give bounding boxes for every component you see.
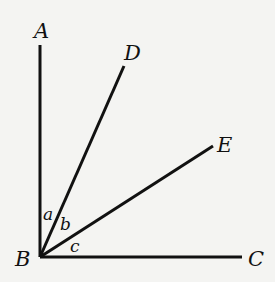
point-label-c: C <box>248 247 264 271</box>
point-label-d: D <box>123 41 141 65</box>
angle-label-a: a <box>43 204 53 224</box>
angle-diagram: A D E C B a b c <box>0 0 275 282</box>
point-label-b: B <box>14 247 30 271</box>
point-label-a: A <box>32 19 49 43</box>
point-label-e: E <box>216 133 232 157</box>
angle-label-c: c <box>70 236 80 256</box>
angle-label-b: b <box>60 214 71 234</box>
